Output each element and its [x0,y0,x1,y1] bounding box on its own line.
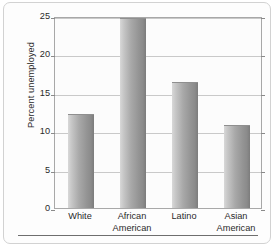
y-axis-tick-label: 20 [28,51,50,60]
x-axis-tick-label: AfricanAmerican [113,211,152,234]
x-axis-tick-label-line: African [118,211,147,221]
bottom-divider [18,235,258,236]
x-axis-tick-label-line: American [113,223,152,235]
y-axis-tick-label: 25 [28,12,50,21]
bar [172,82,198,208]
y-axis-tick-mark-right [261,95,265,96]
x-axis-tick-label: White [68,211,92,223]
bar [224,125,250,208]
y-axis-tick-mark-right [261,18,265,19]
x-axis-tick-label: Latino [171,211,196,223]
bar [120,18,146,208]
x-axis-tick-label-line: American [217,223,256,235]
plot-inner [55,18,261,208]
y-axis-tick-mark-right [261,56,265,57]
y-axis-tick-label: 5 [28,166,50,175]
x-axis-tick-label: AsianAmerican [217,211,256,234]
x-axis-tick-label-line: Asian [225,211,248,221]
y-axis-tick-mark-right [261,172,265,173]
bar [68,114,94,208]
x-axis-tick-labels: WhiteAfricanAmericanLatinoAsianAmerican [54,211,262,241]
y-axis-tick-label: 0 [28,204,50,213]
plot-area [54,17,262,209]
bars-group [55,18,261,208]
x-axis-tick-label-line: White [68,211,92,221]
y-axis-tick-mark-right [261,133,265,134]
y-axis-tick-labels: 0510152025 [28,17,50,209]
y-axis-tick-label: 15 [28,89,50,98]
y-axis-tick-label: 10 [28,128,50,137]
figure-card: Percent unemployed 0510152025 WhiteAfric… [3,2,271,244]
x-axis-tick-label-line: Latino [171,211,196,221]
